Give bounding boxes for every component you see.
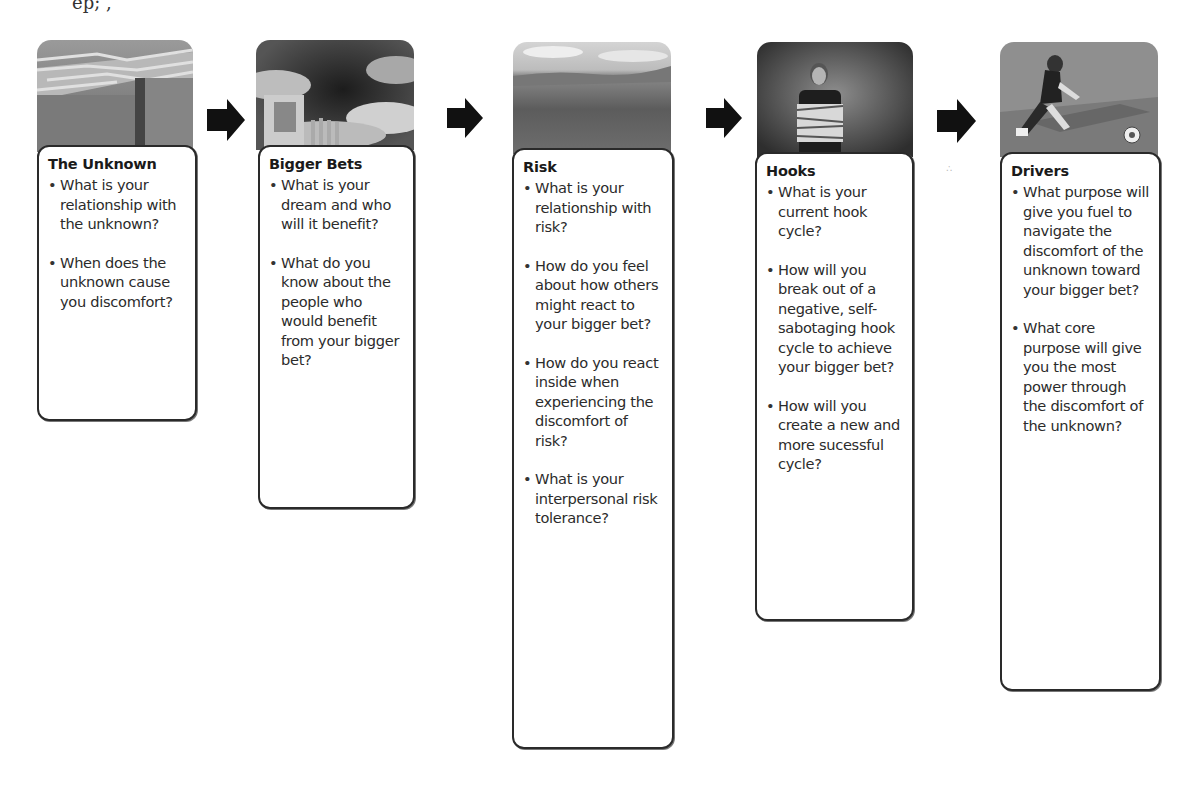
arrow-right-icon [937, 99, 976, 143]
question-item: When does the unknown cause you discomfo… [48, 253, 187, 312]
arrow-right-icon [706, 98, 742, 138]
soccer-player-photo-icon [1000, 42, 1158, 157]
question-list: What is your current hook cycle? How wil… [766, 182, 904, 474]
stage-box: Bigger Bets What is your dream and who w… [258, 145, 415, 509]
stage-title: Risk [523, 159, 664, 175]
door-in-clouds-photo-icon [256, 40, 414, 150]
question-list: What purpose will give you fuel to navig… [1011, 182, 1151, 435]
stage-box: Hooks What is your current hook cycle? H… [755, 152, 914, 621]
stage-title: Drivers [1011, 163, 1151, 179]
stage-box: The Unknown What is your relationship wi… [37, 145, 197, 421]
stage-box: Drivers What purpose will give you fuel … [1000, 152, 1161, 691]
question-item: How will you create a new and more suces… [766, 396, 904, 474]
stage-box: Risk What is your relationship with risk… [512, 148, 674, 749]
stage-title: Bigger Bets [269, 156, 405, 172]
arrow-right-icon [207, 99, 245, 141]
question-list: What is your dream and who will it benef… [269, 175, 405, 370]
arrow-right-icon [447, 98, 483, 138]
question-item: What is your relationship with risk? [523, 178, 664, 237]
smudge-artifact: ∴ [946, 163, 952, 174]
landscape-photo-icon [513, 42, 671, 154]
question-item: How will you break out of a negative, se… [766, 260, 904, 377]
maze-photo-icon [37, 40, 193, 152]
stage-title: Hooks [766, 163, 904, 179]
question-list: What is your relationship with risk? How… [523, 178, 664, 528]
question-item: How do you feel about how others might r… [523, 256, 664, 334]
question-item: How do you react inside when experiencin… [523, 353, 664, 451]
question-list: What is your relationship with the unkno… [48, 175, 187, 311]
question-item: What is your relationship with the unkno… [48, 175, 187, 234]
question-item: What is your dream and who will it benef… [269, 175, 405, 234]
question-item: What is your current hook cycle? [766, 182, 904, 241]
question-item: What purpose will give you fuel to navig… [1011, 182, 1151, 299]
question-item: What do you know about the people who wo… [269, 253, 405, 370]
taped-man-photo-icon [757, 42, 913, 157]
question-item: What core purpose will give you the most… [1011, 318, 1151, 435]
question-item: What is your interpersonal risk toleranc… [523, 469, 664, 528]
stage-title: The Unknown [48, 156, 187, 172]
cropped-text-artifact: ep; , [72, 0, 112, 13]
